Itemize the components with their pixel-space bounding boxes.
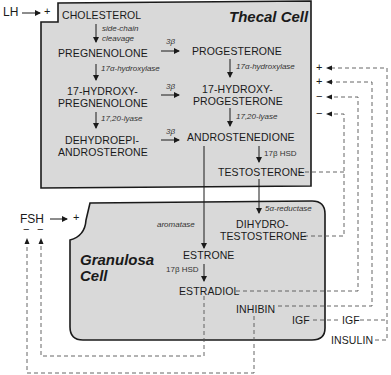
dhea-line2: ANDROSTERONE [58,147,148,158]
granulosa-cell-title-1: Granulosa [80,252,154,267]
inhibin: INHIBIN [236,304,275,315]
right-sign-1: + [316,62,322,73]
enzyme-17b-hsd-thecal: 17β HSD [264,150,297,158]
enzyme-hydroxylase-left: 17α-hydroxylase [101,65,160,73]
enzyme-3b-3: 3β [166,128,175,136]
insulin-label: INSULIN [331,335,373,346]
right-sign-2: + [316,76,322,87]
androstenedione: ANDROSTENEDIONE [187,132,295,143]
hydroxyprogesterone-line2: PROGESTERONE [193,96,283,107]
enzyme-scc-1: side-chain [102,25,138,33]
enzyme-scc-2: cleavage [102,35,134,43]
hydroxypregnenolone-line1: 17-HYDROXY- [67,86,138,97]
granulosa-cell-title-2: Cell [80,268,108,283]
fsh-sign: + [73,212,79,223]
enzyme-lyase-left: 17,20-lyase [101,115,142,123]
igf-internal-label: IGF [292,315,310,326]
enzyme-17b-hsd-granulosa: 17β HSD [166,266,199,274]
fsh-neg-1: − [23,224,29,235]
estrone: ESTRONE [183,250,234,261]
enzyme-3b-2: 3β [166,83,175,91]
pregnenolone: PREGNENOLONE [58,48,148,59]
enzyme-lyase-right: 17,20-lyase [236,113,277,121]
right-sign-4: − [316,108,322,119]
cholesterol: CHOLESTEROL [62,10,141,21]
estradiol: ESTRADIOL [179,286,239,297]
thecal-cell-title: Thecal Cell [229,9,308,24]
hydroxypregnenolone-line2: PREGNENOLONE [58,98,148,109]
enzyme-hydroxylase-right: 17α-hydroxylase [236,63,295,71]
lh-sign: + [44,6,50,17]
dht-line2: TESTOSTERONE [220,231,307,242]
igf-external-label: IGF [342,315,360,326]
hydroxyprogesterone-line1: 17-HYDROXY- [202,84,273,95]
enzyme-3b-1: 3β [166,38,175,46]
enzyme-aromatase: aromatase [157,221,195,229]
lh-label: LH [3,6,18,18]
fsh-neg-2: − [37,224,43,235]
dhea-line1: DEHYDROEPI- [65,135,139,146]
dht-line1: DIHYDRO- [236,219,289,230]
right-sign-3: − [316,91,322,102]
enzyme-5a-reductase: 5α-reductase [265,205,312,213]
progesterone: PROGESTERONE [192,46,282,57]
testosterone: TESTOSTERONE [218,167,305,178]
